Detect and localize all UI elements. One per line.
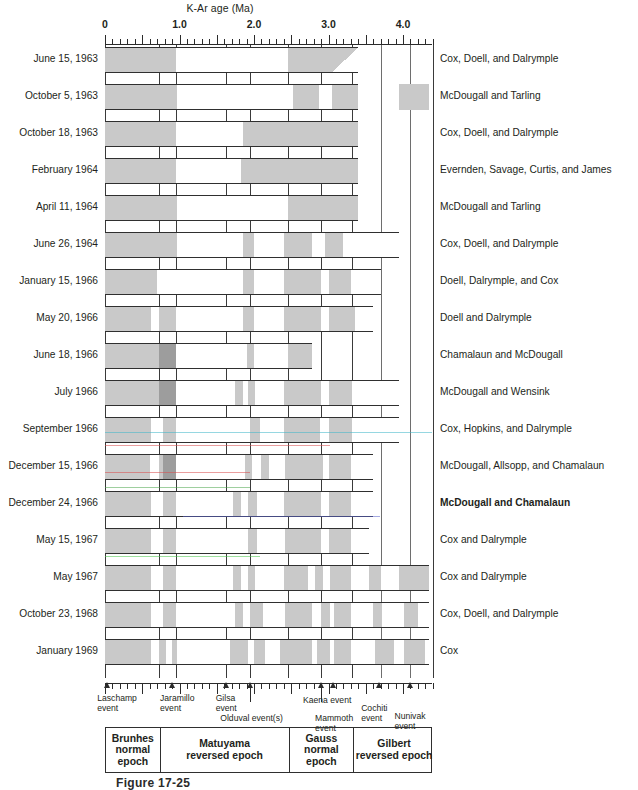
ruler-tick bbox=[388, 683, 389, 689]
ruler-tick bbox=[403, 683, 404, 694]
epoch-label-line1: Matuyama bbox=[186, 738, 263, 750]
normal-polarity-band bbox=[284, 381, 321, 405]
normal-polarity-band bbox=[163, 418, 176, 442]
normal-polarity-band bbox=[105, 122, 176, 146]
normal-polarity-band bbox=[284, 233, 312, 257]
plot-area bbox=[105, 45, 432, 678]
normal-polarity-band bbox=[334, 603, 350, 627]
row-authors-label: Cox, Doell, and Dalrymple bbox=[440, 608, 638, 619]
normal-polarity-band bbox=[329, 307, 355, 331]
ruler-tick bbox=[142, 683, 143, 694]
normal-polarity-band bbox=[404, 603, 417, 627]
normal-polarity-band bbox=[332, 85, 358, 109]
ruler-tick bbox=[232, 683, 233, 689]
normal-polarity-band bbox=[285, 529, 321, 553]
normal-polarity-band bbox=[105, 455, 150, 479]
normal-polarity-band bbox=[399, 566, 429, 590]
row-date-label: June 15, 1963 bbox=[0, 53, 98, 64]
normal-polarity-band bbox=[315, 566, 322, 590]
normal-polarity-band bbox=[241, 159, 358, 183]
normal-polarity-band bbox=[233, 566, 240, 590]
polarity-row bbox=[105, 269, 432, 295]
epoch-box: Gaussnormalepoch bbox=[289, 728, 354, 772]
ruler-tick bbox=[157, 683, 158, 689]
row-authors-label: Cox, Doell, and Dalrymple bbox=[440, 53, 638, 64]
ruler-tick bbox=[209, 683, 210, 689]
tick-label-1-0: 1.0 bbox=[160, 18, 200, 30]
normal-polarity-band bbox=[254, 640, 265, 664]
normal-polarity-band bbox=[105, 566, 151, 590]
row-authors-label: Chamalaun and McDougall bbox=[440, 349, 638, 360]
event-labels: LaschampeventJaramilloeventGilsaeventOld… bbox=[95, 694, 445, 730]
row-date-label: December 15, 1966 bbox=[0, 460, 98, 471]
ruler-tick bbox=[366, 35, 367, 45]
normal-polarity-band bbox=[105, 603, 151, 627]
epoch-label-line1: Gilbert bbox=[356, 738, 433, 750]
normal-polarity-band bbox=[105, 48, 176, 72]
normal-polarity-band bbox=[321, 603, 330, 627]
ruler-tick bbox=[336, 683, 337, 689]
gridline bbox=[433, 45, 434, 678]
scan-artifact-line bbox=[105, 556, 260, 557]
bottom-ruler bbox=[105, 683, 432, 694]
taper-wedge bbox=[332, 48, 358, 72]
normal-polarity-band bbox=[399, 84, 429, 110]
event-label: Olduval event(s) bbox=[220, 714, 283, 724]
event-label-line2: event bbox=[97, 704, 137, 714]
ruler-tick bbox=[135, 683, 136, 689]
scan-artifact-line bbox=[105, 487, 250, 488]
row-authors-label: Cox and Dalrymple bbox=[440, 534, 638, 545]
row-authors-label: Doell, Dalrymple, and Cox bbox=[440, 275, 638, 286]
row-authors-label: McDougall and Tarling bbox=[440, 201, 638, 212]
normal-polarity-band bbox=[329, 455, 351, 479]
ruler-tick bbox=[425, 683, 426, 689]
row-date-label: June 18, 1966 bbox=[0, 349, 98, 360]
normal-polarity-band bbox=[163, 603, 176, 627]
tick-label-0: 0 bbox=[85, 18, 125, 30]
epoch-box: Brunhesnormalepoch bbox=[106, 728, 160, 772]
normal-polarity-band bbox=[280, 640, 312, 664]
ruler-tick bbox=[269, 683, 270, 689]
row-authors-label: McDougall and Tarling bbox=[440, 90, 638, 101]
epoch-label-line1: Brunhes bbox=[112, 733, 154, 745]
normal-polarity-band bbox=[105, 85, 177, 109]
normal-polarity-band bbox=[235, 381, 242, 405]
row-date-label: October 18, 1963 bbox=[0, 127, 98, 138]
normal-polarity-band bbox=[248, 381, 255, 405]
event-label: Laschampevent bbox=[97, 694, 137, 713]
ruler-tick bbox=[150, 683, 151, 689]
ruler-tick bbox=[105, 35, 106, 45]
event-label-line2: event bbox=[216, 704, 237, 714]
row-authors-label: Evernden, Savage, Curtis, and James bbox=[440, 164, 638, 175]
tick-label-3-0: 3.0 bbox=[309, 18, 349, 30]
ruler-tick bbox=[239, 683, 240, 689]
normal-polarity-band bbox=[284, 307, 321, 331]
polarity-row bbox=[105, 528, 432, 554]
polarity-row bbox=[105, 47, 432, 73]
epoch-label-line2: normal bbox=[112, 744, 154, 756]
normal-polarity-band bbox=[230, 640, 248, 664]
tick-label-4-0: 4.0 bbox=[383, 18, 423, 30]
row-date-label: June 26, 1964 bbox=[0, 238, 98, 249]
normal-polarity-band bbox=[404, 640, 425, 664]
ruler-tick bbox=[366, 683, 367, 694]
normal-polarity-band bbox=[250, 418, 260, 442]
event-arrow-icon bbox=[104, 682, 110, 688]
event-leader-line bbox=[250, 688, 251, 702]
ruler-tick bbox=[112, 683, 113, 689]
normal-polarity-band bbox=[285, 603, 312, 627]
event-label: Gilsaevent bbox=[216, 694, 237, 713]
row-authors-label: McDougall, Allsopp, and Chamalaun bbox=[440, 460, 638, 471]
normal-polarity-band bbox=[288, 48, 333, 72]
ruler-tick bbox=[299, 683, 300, 689]
polarity-row bbox=[105, 306, 432, 332]
normal-polarity-band bbox=[163, 529, 176, 553]
dark-event-band bbox=[163, 455, 176, 479]
epoch-bar: BrunhesnormalepochMatuyamareversed epoch… bbox=[105, 727, 432, 773]
ruler-tick bbox=[261, 683, 262, 689]
row-date-label: October 5, 1963 bbox=[0, 90, 98, 101]
dark-event-band bbox=[159, 381, 176, 405]
normal-polarity-band bbox=[248, 529, 257, 553]
normal-polarity-band bbox=[243, 307, 254, 331]
polarity-row bbox=[105, 417, 432, 443]
